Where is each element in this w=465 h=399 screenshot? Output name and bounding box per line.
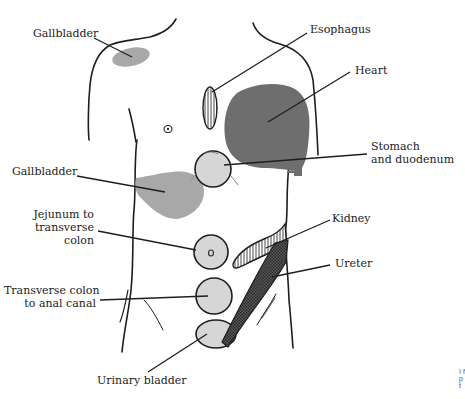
esophagus-region: [203, 87, 217, 129]
label-kidney: Kidney: [332, 212, 371, 225]
label-transverse-colon: Transverse colon to anal canal: [4, 284, 96, 310]
torso-illustration: [0, 0, 465, 399]
label-stomach-duodenum: Stomach and duodenum: [371, 140, 454, 166]
label-esophagus: Esophagus: [310, 23, 371, 36]
label-heart: Heart: [355, 64, 387, 77]
jejunum-region: [194, 235, 228, 269]
gallbladder-abdomen-region: [135, 172, 204, 219]
label-gallbladder-shoulder: Gallbladder: [33, 27, 98, 40]
referred-pain-diagram: Gallbladder Esophagus Heart Stomach and …: [0, 0, 465, 399]
label-gallbladder-abdomen: Gallbladder: [12, 165, 77, 178]
label-jejunum: Jejunum to transverse colon: [22, 208, 94, 247]
label-ureter: Ureter: [335, 257, 372, 270]
label-urinary-bladder: Urinary bladder: [97, 374, 187, 387]
navel-mark: [164, 126, 172, 133]
caption-fragment: I f p t: [459, 368, 465, 389]
